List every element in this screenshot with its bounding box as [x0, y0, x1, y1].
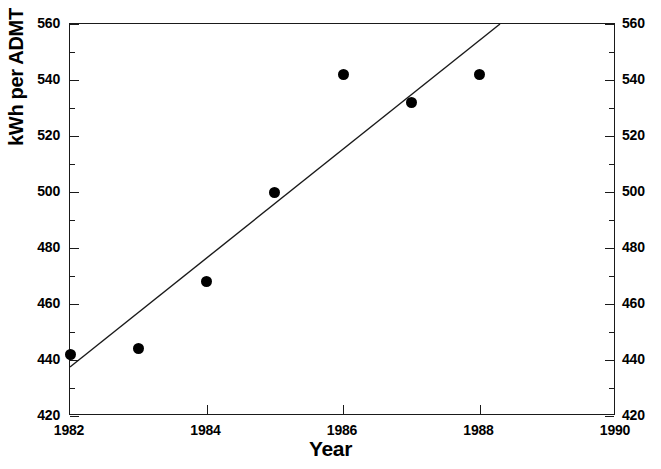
y-tick-major-left — [70, 136, 79, 137]
y-tick-minor-left — [70, 276, 75, 277]
y-tick-major-right — [605, 136, 614, 137]
x-axis-title: Year — [0, 437, 661, 461]
y-tick-minor-left — [70, 220, 75, 221]
y-tick-minor-right — [609, 332, 614, 333]
y-tick-major-left — [70, 248, 79, 249]
y-tick-major-right — [605, 80, 614, 81]
y-tick-minor-right — [609, 220, 614, 221]
x-tick-label: 1982 — [54, 423, 84, 437]
x-tick-label: 1984 — [190, 423, 220, 437]
x-tick-label: 1986 — [327, 423, 357, 437]
x-tick-major — [480, 405, 481, 414]
y-tick-major-right — [605, 416, 614, 417]
x-tick-label: 1988 — [463, 423, 493, 437]
y-tick-label-right: 560 — [622, 16, 645, 30]
y-tick-label-left: 440 — [37, 352, 60, 366]
y-tick-label-left: 500 — [37, 184, 60, 198]
y-tick-label-left: 560 — [37, 16, 60, 30]
x-tick-major — [207, 405, 208, 414]
y-tick-label-left: 480 — [37, 240, 60, 254]
y-axis-title: kWh per ADMT — [5, 120, 28, 146]
plot-area — [69, 23, 615, 415]
y-tick-minor-right — [609, 388, 614, 389]
y-tick-minor-right — [609, 52, 614, 53]
data-point — [65, 349, 76, 360]
y-tick-label-right: 520 — [622, 128, 645, 142]
y-tick-label-right: 500 — [622, 184, 645, 198]
y-tick-minor-left — [70, 108, 75, 109]
x-tick-major — [343, 405, 344, 414]
data-point — [269, 187, 280, 198]
y-tick-label-right: 440 — [622, 352, 645, 366]
y-tick-major-left — [70, 416, 79, 417]
y-tick-major-right — [605, 304, 614, 305]
y-tick-label-right: 460 — [622, 296, 645, 310]
data-point — [406, 97, 417, 108]
x-axis-title-text: Year — [309, 437, 352, 460]
y-tick-label-right: 480 — [622, 240, 645, 254]
data-point — [338, 69, 349, 80]
y-tick-major-right — [605, 248, 614, 249]
trend-line — [70, 24, 616, 416]
y-tick-major-left — [70, 360, 79, 361]
data-point — [133, 343, 144, 354]
chart-figure: kWh per ADMT Year 4204204404404604604804… — [0, 0, 661, 469]
y-tick-minor-left — [70, 388, 75, 389]
y-tick-minor-right — [609, 164, 614, 165]
y-tick-label-left: 520 — [37, 128, 60, 142]
y-tick-label-left: 420 — [37, 408, 60, 422]
y-tick-minor-left — [70, 164, 75, 165]
y-tick-minor-right — [609, 108, 614, 109]
y-tick-label-left: 460 — [37, 296, 60, 310]
data-point — [474, 69, 485, 80]
y-tick-major-left — [70, 192, 79, 193]
y-tick-major-right — [605, 24, 614, 25]
y-tick-label-right: 540 — [622, 72, 645, 86]
y-tick-minor-left — [70, 332, 75, 333]
y-tick-label-left: 540 — [37, 72, 60, 86]
y-tick-minor-right — [609, 276, 614, 277]
x-tick-label: 1990 — [600, 423, 630, 437]
y-tick-major-right — [605, 360, 614, 361]
y-tick-major-left — [70, 304, 79, 305]
y-tick-label-right: 420 — [622, 408, 645, 422]
y-tick-major-right — [605, 192, 614, 193]
y-tick-minor-left — [70, 52, 75, 53]
y-tick-major-left — [70, 80, 79, 81]
y-tick-major-left — [70, 24, 79, 25]
